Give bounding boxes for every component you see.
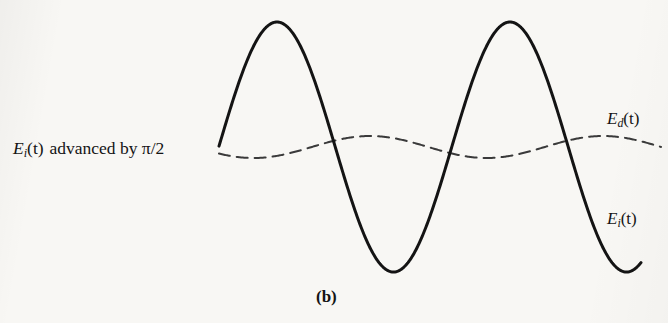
dashed-curve-ed [219, 136, 661, 158]
ed-symbol: E [607, 109, 617, 128]
waveform-plot [0, 0, 668, 323]
figure-panel-b: Ei(t) advanced by π/2 Ed(t) Ei(t) (b) [0, 0, 668, 323]
ed-argument: (t) [623, 109, 639, 128]
annotation-text: advanced by [49, 138, 137, 158]
annotation-argument: (t) [27, 138, 44, 158]
ei-symbol: E [607, 209, 617, 228]
solid-curve-ei [219, 22, 641, 272]
curve-label-ed: Ed(t) [607, 110, 639, 130]
left-annotation: Ei(t) advanced by π/2 [13, 140, 164, 160]
curve-label-ei: Ei(t) [607, 210, 637, 230]
annotation-phase: π/2 [142, 138, 164, 158]
panel-caption: (b) [316, 288, 337, 305]
annotation-symbol: E [13, 138, 24, 158]
ei-argument: (t) [621, 209, 637, 228]
